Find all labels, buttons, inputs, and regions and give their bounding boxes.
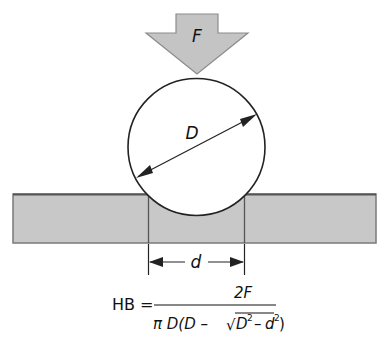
indent-diameter-label: d (191, 252, 202, 272)
arrowhead-icon (230, 257, 244, 267)
indenter-ball (128, 79, 265, 216)
formula-numerator: 2F (234, 284, 253, 302)
close-paren: ) (279, 315, 285, 333)
formula-lhs: HB = (112, 295, 154, 314)
sqrt-icon: √ (226, 316, 236, 334)
arrowhead-icon (149, 257, 163, 267)
brinell-diagram: F D d HB = 2F π D(D – √ D 2 – d 2 ) (0, 0, 387, 345)
radicand-minus: – (254, 315, 262, 333)
brinell-formula: HB = 2F π D(D – √ D 2 – d 2 ) (112, 284, 285, 334)
ball-diameter-label: D (185, 123, 198, 143)
exponent-1: 2 (247, 313, 253, 323)
formula-denominator-prefix: π D(D – (153, 315, 208, 333)
force-label: F (192, 26, 202, 46)
radicand-D: D (236, 315, 248, 333)
